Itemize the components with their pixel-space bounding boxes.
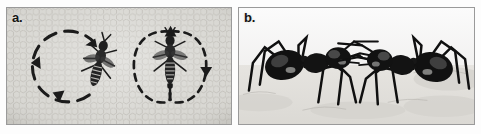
panel-a-label: a. [12, 10, 22, 25]
panel-a-bee-dances: a. Honeybee dance language on the comb [6, 7, 232, 125]
panel-b-label: b. [244, 10, 255, 25]
figure-container: a. Honeybee dance language on the comb [0, 0, 481, 134]
panel-b-ant-antennation: b. Two ants exchanging signals by touchi… [238, 7, 475, 125]
panel-b-artwork [239, 8, 474, 124]
panel-a-artwork [7, 8, 231, 124]
